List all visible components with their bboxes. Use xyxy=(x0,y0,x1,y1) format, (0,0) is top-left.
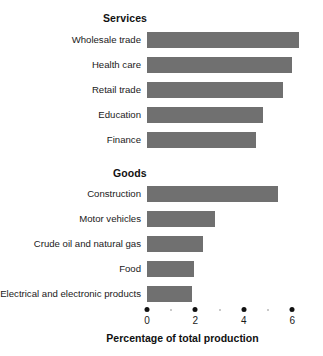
bar-row: Finance xyxy=(0,132,323,148)
bar-label: Crude oil and natural gas xyxy=(34,236,141,252)
group-heading-goods: Goods xyxy=(113,167,147,179)
x-tick-label: 6 xyxy=(289,315,295,326)
bar xyxy=(147,261,194,277)
bar-label: Electrical and electronic products xyxy=(0,286,141,302)
bar-row: Construction xyxy=(0,186,323,202)
group-heading-services: Services xyxy=(103,12,147,24)
bar-row: Crude oil and natural gas xyxy=(0,236,323,252)
bar xyxy=(147,107,263,123)
bar-row: Motor vehicles xyxy=(0,211,323,227)
x-tick-dot xyxy=(145,307,150,312)
x-axis-title-text: Percentage of total production xyxy=(106,332,258,344)
bar-label: Retail trade xyxy=(92,82,141,98)
bar xyxy=(147,236,203,252)
x-minor-tick-dot xyxy=(170,309,172,311)
x-tick-label: 4 xyxy=(241,315,247,326)
bar-label: Construction xyxy=(87,186,141,202)
bar xyxy=(147,132,256,148)
x-tick-label: 0 xyxy=(144,315,150,326)
bar-label: Food xyxy=(119,261,141,277)
bar-row: Wholesale trade xyxy=(0,32,323,48)
x-tick-dot xyxy=(193,307,198,312)
bar-row: Electrical and electronic products xyxy=(0,286,323,302)
bar-label: Health care xyxy=(92,57,141,73)
x-tick-dot xyxy=(241,307,246,312)
x-tick-dot xyxy=(290,307,295,312)
bar xyxy=(147,57,292,73)
bar-label: Education xyxy=(98,107,141,123)
x-minor-tick-dot xyxy=(267,309,269,311)
x-tick-label: 2 xyxy=(193,315,199,326)
bar-row: Retail trade xyxy=(0,82,323,98)
bar-label: Wholesale trade xyxy=(72,32,141,48)
bar-row: Food xyxy=(0,261,323,277)
bar xyxy=(147,286,192,302)
bar-row: Health care xyxy=(0,57,323,73)
bar-label: Finance xyxy=(107,132,141,148)
bar xyxy=(147,211,215,227)
bar xyxy=(147,32,299,48)
bar-row: Education xyxy=(0,107,323,123)
bar xyxy=(147,186,278,202)
bar xyxy=(147,82,283,98)
x-axis: Percentage of total production 0246 xyxy=(0,307,323,347)
x-minor-tick-dot xyxy=(219,309,221,311)
bar-chart: Services Goods Wholesale tradeHealth car… xyxy=(0,0,323,356)
bar-label: Motor vehicles xyxy=(79,211,141,227)
x-axis-title: Percentage of total production xyxy=(0,332,323,344)
